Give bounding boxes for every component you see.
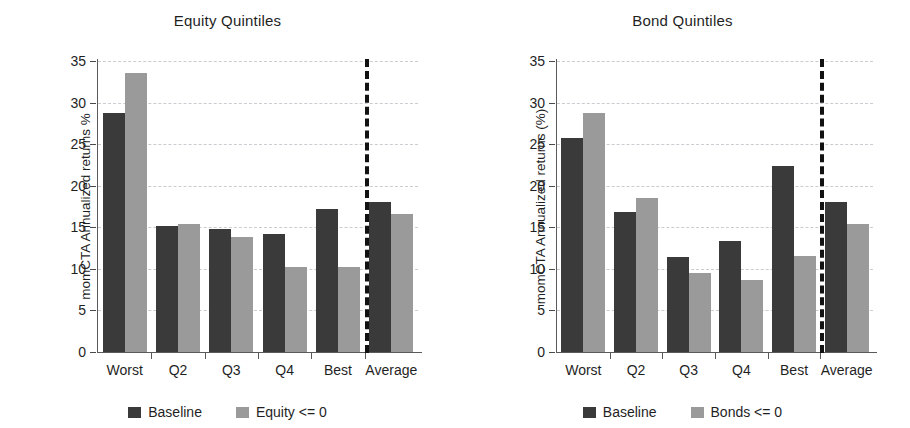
panel-equity-quintiles: Equity Quintiles momCTA Annualized retur… (0, 0, 455, 428)
x-tick-label-q4: Q4 (715, 362, 768, 378)
x-tick-label-q4: Q4 (258, 362, 311, 378)
bar-group-best: Best (768, 61, 821, 352)
x-tick-mark (205, 353, 206, 359)
legend-item-baseline[interactable]: Baseline (583, 404, 657, 420)
y-tick-mark (90, 61, 96, 62)
bar-group-best: Best (311, 61, 364, 352)
legend-swatch-icon (583, 407, 596, 418)
y-tick-mark (549, 269, 555, 270)
bar-groups-equity: WorstQ2Q3Q4BestAverage (98, 61, 418, 352)
y-tick-label-25: 25 (529, 136, 545, 152)
bar-q3-baseline (209, 229, 231, 352)
bar-q2-bonds-0 (636, 198, 658, 352)
y-tick-mark (90, 269, 96, 270)
bar-q3-equity-0 (231, 237, 253, 352)
bar-worst-bonds-0 (583, 113, 605, 352)
y-tick-mark (90, 186, 96, 187)
y-tick-mark (549, 144, 555, 145)
legend-equity: BaselineEquity <= 0 (0, 404, 455, 420)
y-tick-label-15: 15 (529, 219, 545, 235)
y-tick-label-30: 30 (70, 95, 86, 111)
plot-area-bond: momCTA Annualized returns (%) 0510152025… (557, 61, 873, 352)
bar-worst-equity-0 (125, 73, 147, 352)
y-tick-label-35: 35 (529, 53, 545, 69)
bar-q3-bonds-0 (689, 273, 711, 352)
bar-group-worst: Worst (98, 61, 151, 352)
bar-groups-bond: WorstQ2Q3Q4BestAverage (557, 61, 873, 352)
legend-bond: BaselineBonds <= 0 (455, 404, 910, 420)
y-tick-label-30: 30 (529, 95, 545, 111)
bar-worst-baseline (561, 138, 583, 352)
legend-swatch-icon (236, 407, 249, 418)
y-tick-mark (549, 61, 555, 62)
bar-best-bonds-0 (794, 256, 816, 352)
bar-average-baseline (369, 202, 391, 352)
legend-swatch-icon (128, 407, 141, 418)
x-tick-label-average: Average (365, 362, 418, 378)
bar-average-baseline (825, 202, 847, 352)
y-tick-label-5: 5 (78, 302, 86, 318)
x-tick-label-q2: Q2 (610, 362, 663, 378)
chart-title-bond: Bond Quintiles (455, 12, 910, 29)
legend-item-baseline[interactable]: Baseline (128, 404, 202, 420)
bar-q4-baseline (719, 241, 741, 352)
chart-title-equity: Equity Quintiles (0, 12, 455, 29)
bar-group-worst: Worst (557, 61, 610, 352)
legend-label: Baseline (148, 404, 202, 420)
y-tick-label-35: 35 (70, 53, 86, 69)
x-tick-mark (151, 353, 152, 359)
x-tick-mark (820, 353, 821, 359)
y-tick-mark (90, 352, 96, 353)
x-tick-label-worst: Worst (557, 362, 610, 378)
bar-group-q4: Q4 (715, 61, 768, 352)
y-tick-mark (549, 310, 555, 311)
bar-q2-baseline (614, 212, 636, 352)
y-tick-label-20: 20 (70, 178, 86, 194)
bar-average-bonds-0 (847, 224, 869, 352)
x-tick-label-worst: Worst (98, 362, 151, 378)
bar-best-baseline (316, 209, 338, 352)
bar-q3-baseline (667, 257, 689, 352)
legend-label: Bonds <= 0 (711, 404, 783, 420)
y-tick-mark (90, 227, 96, 228)
bar-group-q2: Q2 (151, 61, 204, 352)
x-tick-mark (365, 353, 366, 359)
bar-q2-baseline (156, 226, 178, 352)
x-axis-line-equity (97, 352, 422, 353)
bar-q4-baseline (263, 234, 285, 352)
y-tick-label-25: 25 (70, 136, 86, 152)
bar-q4-equity-0 (285, 267, 307, 352)
y-tick-mark (90, 144, 96, 145)
bar-group-average: Average (365, 61, 418, 352)
y-tick-label-0: 0 (78, 344, 86, 360)
x-tick-label-best: Best (311, 362, 364, 378)
x-tick-label-average: Average (820, 362, 873, 378)
figure-two-panel-bar-charts: Equity Quintiles momCTA Annualized retur… (0, 0, 910, 428)
bar-average-equity-0 (391, 214, 413, 352)
bar-q2-equity-0 (178, 224, 200, 352)
y-tick-mark (549, 186, 555, 187)
y-tick-label-10: 10 (529, 261, 545, 277)
legend-item-equity-0[interactable]: Equity <= 0 (236, 404, 327, 420)
x-tick-mark (610, 353, 611, 359)
x-tick-label-q3: Q3 (662, 362, 715, 378)
legend-item-bonds-0[interactable]: Bonds <= 0 (691, 404, 783, 420)
x-tick-mark (311, 353, 312, 359)
legend-label: Baseline (603, 404, 657, 420)
y-tick-mark (90, 103, 96, 104)
x-axis-line-bond (556, 352, 877, 353)
x-tick-label-q3: Q3 (205, 362, 258, 378)
x-tick-mark (768, 353, 769, 359)
legend-swatch-icon (691, 407, 704, 418)
x-tick-mark (662, 353, 663, 359)
legend-label: Equity <= 0 (256, 404, 327, 420)
y-tick-label-10: 10 (70, 261, 86, 277)
bar-worst-baseline (103, 113, 125, 352)
bar-group-q3: Q3 (662, 61, 715, 352)
plot-area-equity: momCTA Annualized returns % 051015202530… (98, 61, 418, 352)
bar-q4-bonds-0 (741, 280, 763, 352)
bar-best-equity-0 (338, 267, 360, 352)
panel-bond-quintiles: Bond Quintiles momCTA Annualized returns… (455, 0, 910, 428)
y-tick-mark (549, 352, 555, 353)
y-tick-label-0: 0 (537, 344, 545, 360)
